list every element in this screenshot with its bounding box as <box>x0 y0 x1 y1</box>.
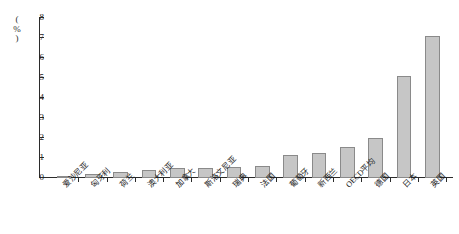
x-axis-tick <box>107 178 108 182</box>
x-axis-tick <box>163 178 164 182</box>
plot-area <box>40 17 452 178</box>
bar <box>425 36 440 178</box>
bar-chart: (%) 012345678 爱沙尼亚匈牙利荷兰澳大利亚加拿大斯洛文尼亚瑞典法国葡… <box>0 0 459 234</box>
x-axis-tick <box>276 178 277 182</box>
x-axis-tick <box>333 178 334 182</box>
x-axis-tick <box>78 178 79 182</box>
x-axis-tick <box>191 178 192 182</box>
x-axis-tick <box>446 178 447 182</box>
x-axis-tick <box>418 178 419 182</box>
x-axis-tick <box>248 178 249 182</box>
bar <box>397 76 412 178</box>
x-axis-tick <box>361 178 362 182</box>
